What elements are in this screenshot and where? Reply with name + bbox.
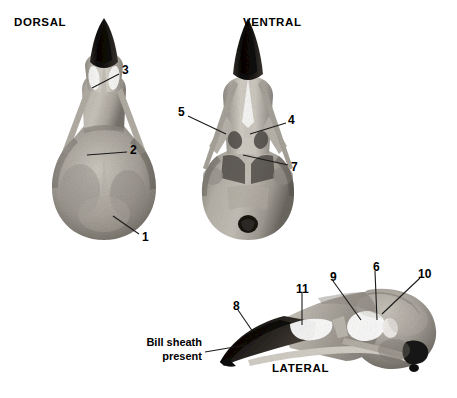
view-title-lateral: LATERAL (272, 362, 329, 374)
callout-label-11: 11 (296, 283, 309, 295)
annotation-bill-sheath-present: Bill sheath present (128, 336, 202, 364)
ventral-skull-image (193, 18, 303, 240)
callout-label-4: 4 (288, 114, 295, 126)
callout-label-5: 5 (178, 106, 185, 118)
callout-label-1: 1 (142, 231, 149, 243)
callout-label-10: 10 (418, 268, 431, 280)
bird-skull-figure: DORSAL VENTRAL LATERAL 3 2 1 5 4 7 8 11 … (0, 0, 457, 398)
lateral-skull-image (218, 276, 440, 374)
view-title-ventral: VENTRAL (243, 16, 302, 28)
dorsal-skull-image (44, 18, 164, 240)
view-title-dorsal: DORSAL (14, 16, 66, 28)
callout-label-3: 3 (122, 64, 129, 76)
callout-label-6: 6 (373, 261, 380, 273)
callout-label-2: 2 (130, 144, 137, 156)
callout-label-7: 7 (291, 161, 298, 173)
callout-label-9: 9 (330, 271, 337, 283)
callout-label-8: 8 (233, 300, 240, 312)
